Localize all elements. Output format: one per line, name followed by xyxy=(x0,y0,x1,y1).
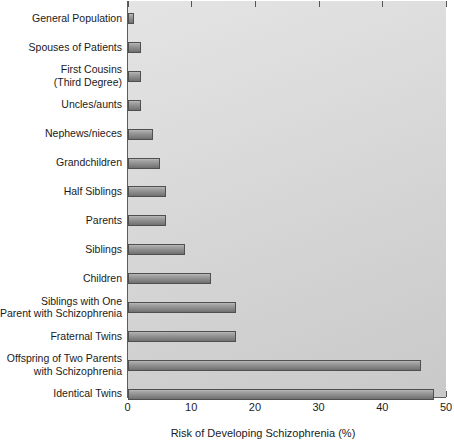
category-label: Siblings xyxy=(0,243,122,256)
schizophrenia-risk-bar-chart: 01020304050 General PopulationSpouses of… xyxy=(0,0,454,443)
x-tick-label-30: 30 xyxy=(312,401,324,413)
x-tick-50-top xyxy=(446,1,447,7)
bar xyxy=(128,129,153,140)
bar xyxy=(128,244,185,255)
x-tick-50-bottom xyxy=(446,391,447,397)
category-label: Parents xyxy=(0,214,122,227)
x-tick-label-20: 20 xyxy=(249,401,261,413)
category-label: Children xyxy=(0,272,122,285)
x-tick-0-top xyxy=(128,1,129,7)
bar xyxy=(128,186,166,197)
category-label: Spouses of Patients xyxy=(0,41,122,54)
category-label: Fraternal Twins xyxy=(0,330,122,343)
bar xyxy=(128,100,141,111)
bar xyxy=(128,215,166,226)
x-tick-label-40: 40 xyxy=(376,401,388,413)
x-tick-label-50: 50 xyxy=(440,401,452,413)
x-tick-label-10: 10 xyxy=(185,401,197,413)
bar xyxy=(128,273,211,284)
bar xyxy=(128,158,160,169)
x-tick-20-top xyxy=(255,1,256,7)
bar xyxy=(128,71,141,82)
x-tick-40-top xyxy=(382,1,383,7)
x-axis-title: Risk of Developing Schizophrenia (%) xyxy=(0,427,454,439)
bar xyxy=(128,13,134,24)
category-label: Uncles/aunts xyxy=(0,98,122,111)
category-label: First Cousins (Third Degree) xyxy=(0,63,122,88)
category-label: Nephews/nieces xyxy=(0,127,122,140)
bar xyxy=(128,360,421,371)
category-label: Offspring of Two Parents with Schizophre… xyxy=(0,352,122,377)
x-tick-30-top xyxy=(319,1,320,7)
x-axis-title-text: Risk of Developing Schizophrenia (%) xyxy=(99,427,356,439)
x-tick-10-top xyxy=(191,1,192,7)
bar xyxy=(128,389,434,400)
category-label: Half Siblings xyxy=(0,185,122,198)
category-label: Grandchildren xyxy=(0,156,122,169)
x-tick-label-0: 0 xyxy=(124,401,130,413)
category-label: Siblings with One Parent with Schizophre… xyxy=(0,295,122,320)
category-label: Identical Twins xyxy=(0,387,122,400)
bar xyxy=(128,42,141,53)
bar xyxy=(128,331,236,342)
bar xyxy=(128,302,236,313)
category-label: General Population xyxy=(0,12,122,25)
